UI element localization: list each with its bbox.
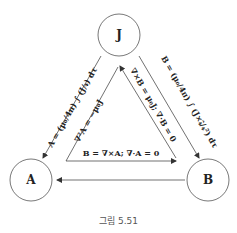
node-J-label: J (115, 28, 122, 42)
node-J: J (98, 14, 140, 56)
node-A: A (10, 159, 52, 201)
node-B-label: B (203, 173, 213, 187)
node-A-label: A (25, 173, 36, 187)
edge-B-to-J (120, 66, 176, 158)
figure-caption: 그림 5.51 (0, 214, 237, 227)
label-A-to-B: B = ∇×A; ∇·A = 0 (83, 148, 160, 158)
relationship-diagram: J A B A = (μ₀/4π) ∫ (J/𝓇) dτ ∇²A = −μ₀J … (0, 0, 237, 233)
node-B: B (187, 159, 229, 201)
